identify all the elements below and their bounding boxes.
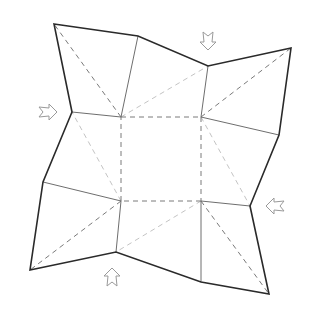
solid-crease <box>201 117 279 135</box>
light-dashed-crease <box>72 112 121 201</box>
push-arrow-left-icon <box>39 104 57 120</box>
light-dashed-crease <box>116 201 201 252</box>
light-dashed-crease <box>201 117 250 206</box>
diagonal-crease <box>30 201 121 270</box>
light-dashed-creases <box>72 66 250 252</box>
paper-outline-polygon <box>30 24 291 294</box>
push-arrows <box>39 32 284 286</box>
origami-diagram <box>0 0 313 312</box>
solid-crease <box>201 201 250 206</box>
solid-crease <box>116 201 121 252</box>
solid-crease <box>121 36 138 117</box>
light-dashed-crease <box>121 66 208 117</box>
solid-creases <box>43 36 279 282</box>
push-arrow-right-icon <box>266 198 284 214</box>
solid-crease <box>72 112 121 117</box>
paper-outline <box>30 24 291 294</box>
diagram-svg <box>0 0 313 312</box>
center-square-dashed <box>121 117 201 201</box>
push-arrow-top-icon <box>200 32 216 50</box>
diagonal-dashed-creases <box>30 24 291 294</box>
solid-crease <box>201 66 208 117</box>
push-arrow-bottom-icon <box>104 268 120 286</box>
solid-crease <box>43 182 121 201</box>
